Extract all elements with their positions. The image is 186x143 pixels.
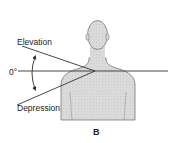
right-ear (106, 34, 109, 40)
depression-label: Depression (17, 104, 60, 113)
shoulder-elevation-depression-diagram: Elevation 0° Depression B (0, 0, 186, 143)
head-silhouette (88, 21, 108, 50)
zero-degree-label: 0° (9, 68, 17, 77)
torso-silhouette (61, 58, 135, 120)
panel-label: B (93, 128, 100, 137)
elevation-line (22, 46, 95, 71)
diagram-drawing (0, 0, 186, 143)
left-ear (86, 34, 89, 40)
range-arc-double-arrow-icon (32, 57, 35, 89)
elevation-label: Elevation (17, 38, 52, 47)
